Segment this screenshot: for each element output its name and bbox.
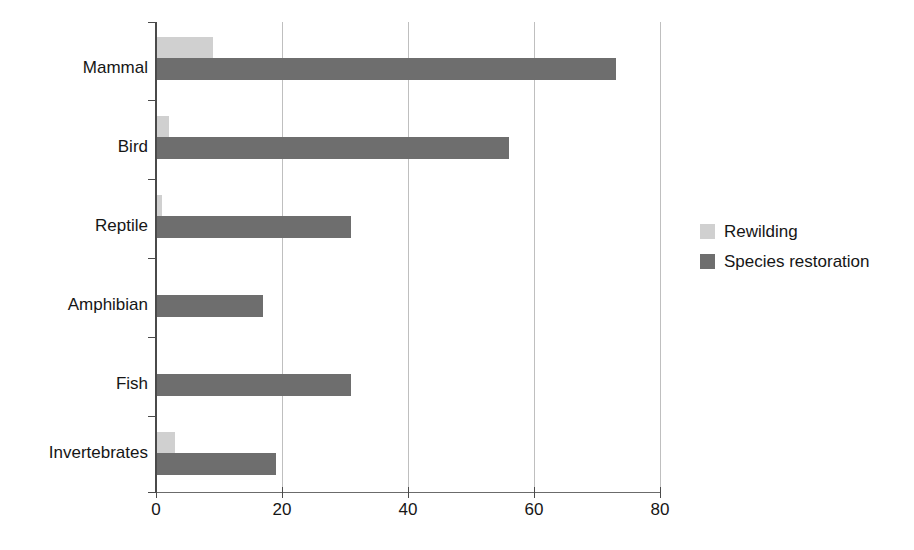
bar-rewilding-mammal xyxy=(156,37,213,58)
y-axis-tick xyxy=(148,337,156,338)
x-axis-tick xyxy=(156,487,157,498)
legend-item-rewilding: Rewilding xyxy=(700,222,870,241)
bar-rewilding-invertebrates xyxy=(156,432,175,453)
gridline-80 xyxy=(660,22,661,492)
bar-restoration-mammal xyxy=(156,58,616,80)
y-axis-label-amphibian: Amphibian xyxy=(68,296,148,314)
x-axis-tick xyxy=(282,487,283,498)
y-axis-label-bird: Bird xyxy=(118,138,148,156)
gridline-40 xyxy=(408,22,409,492)
y-axis-label-invertebrates: Invertebrates xyxy=(49,444,148,462)
y-axis-tick xyxy=(148,492,156,493)
legend-label-rewilding: Rewilding xyxy=(724,222,798,241)
gridline-20 xyxy=(282,22,283,492)
x-axis-tick-label-80: 80 xyxy=(630,500,690,520)
x-axis-tick-label-60: 60 xyxy=(504,500,564,520)
y-axis-tick xyxy=(148,179,156,180)
bar-restoration-reptile xyxy=(156,216,351,238)
x-axis-tick-label-40: 40 xyxy=(378,500,438,520)
legend-swatch-species-restoration xyxy=(700,254,715,269)
plot-area xyxy=(156,22,660,492)
legend-swatch-rewilding xyxy=(700,224,715,239)
bar-restoration-invertebrates xyxy=(156,453,276,475)
bar-restoration-bird xyxy=(156,137,509,159)
x-axis-tick-label-20: 20 xyxy=(252,500,312,520)
y-axis-label-mammal: Mammal xyxy=(83,59,148,77)
y-axis-tick xyxy=(148,416,156,417)
y-axis-tick xyxy=(148,22,156,23)
bar-rewilding-bird xyxy=(156,116,169,137)
y-axis-tick xyxy=(148,100,156,101)
y-axis-label-reptile: Reptile xyxy=(95,217,148,235)
x-axis-tick-label-0: 0 xyxy=(126,500,186,520)
y-axis-label-fish: Fish xyxy=(116,375,148,393)
gridline-60 xyxy=(534,22,535,492)
y-axis-tick xyxy=(148,258,156,259)
x-axis-tick xyxy=(408,487,409,498)
x-axis-tick xyxy=(534,487,535,498)
bar-restoration-amphibian xyxy=(156,295,263,317)
x-axis-tick xyxy=(660,487,661,498)
legend-item-species-restoration: Species restoration xyxy=(700,252,870,271)
bar-restoration-fish xyxy=(156,374,351,396)
legend-label-species-restoration: Species restoration xyxy=(724,252,870,271)
legend: Rewilding Species restoration xyxy=(700,222,870,282)
bar-chart: Mammal Bird Reptile Amphibian Fish Inver… xyxy=(0,0,914,550)
y-axis-line xyxy=(155,22,157,492)
